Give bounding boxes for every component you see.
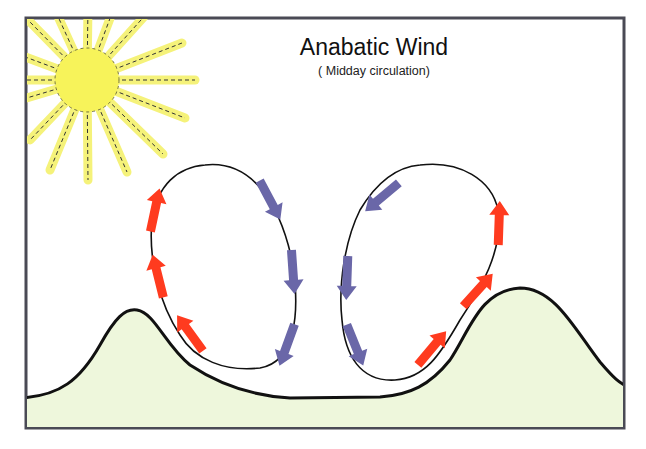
anabatic-wind-diagram: Anabatic Wind ( Midday circulation) (0, 0, 646, 449)
diagram-subtitle: ( Midday circulation) (318, 64, 430, 78)
diagram-title: Anabatic Wind (300, 34, 448, 60)
